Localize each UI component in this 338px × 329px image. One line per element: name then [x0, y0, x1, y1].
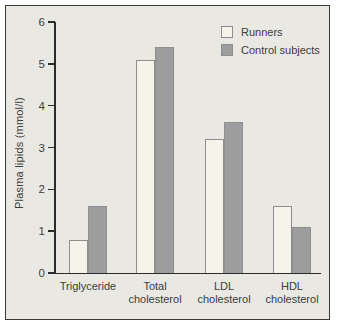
legend-swatch-control-subjects	[221, 44, 233, 56]
y-tick-mark	[48, 147, 55, 149]
y-tick-label: 5	[23, 57, 45, 71]
bar-control-subjects-total-cholesterol	[155, 47, 174, 273]
x-category-label-line: HDL	[250, 280, 334, 293]
y-tick-mark	[48, 189, 55, 191]
bar-runners-total-cholesterol	[136, 60, 155, 273]
bar-chart: Plasma lipids (mmol/l) RunnersControl su…	[0, 0, 338, 329]
y-tick-label: 4	[23, 99, 45, 113]
y-tick-label: 1	[23, 224, 45, 238]
y-tick-mark	[48, 272, 55, 274]
figure-page: Plasma lipids (mmol/l) RunnersControl su…	[0, 0, 338, 329]
y-tick-mark	[48, 63, 55, 65]
legend-label: Control subjects	[241, 44, 320, 56]
bar-control-subjects-triglyceride	[88, 206, 107, 273]
legend-label: Runners	[241, 26, 283, 38]
x-category-label-line: cholesterol	[250, 293, 334, 306]
bar-runners-ldl-cholesterol	[205, 139, 224, 273]
y-tick-label: 0	[23, 266, 45, 280]
legend-swatch-runners	[221, 26, 233, 38]
y-tick-mark	[48, 21, 55, 23]
y-tick-mark	[48, 230, 55, 232]
x-category-label: HDLcholesterol	[250, 280, 334, 306]
legend-item-runners: Runners	[221, 26, 283, 38]
y-tick-label: 2	[23, 182, 45, 196]
y-tick-label: 6	[23, 15, 45, 29]
bar-runners-hdl-cholesterol	[273, 206, 292, 273]
legend-item-control-subjects: Control subjects	[221, 44, 320, 56]
bar-control-subjects-ldl-cholesterol	[224, 122, 243, 273]
y-tick-mark	[48, 105, 55, 107]
bar-runners-triglyceride	[69, 240, 88, 273]
bar-control-subjects-hdl-cholesterol	[292, 227, 311, 273]
y-tick-label: 3	[23, 141, 45, 155]
